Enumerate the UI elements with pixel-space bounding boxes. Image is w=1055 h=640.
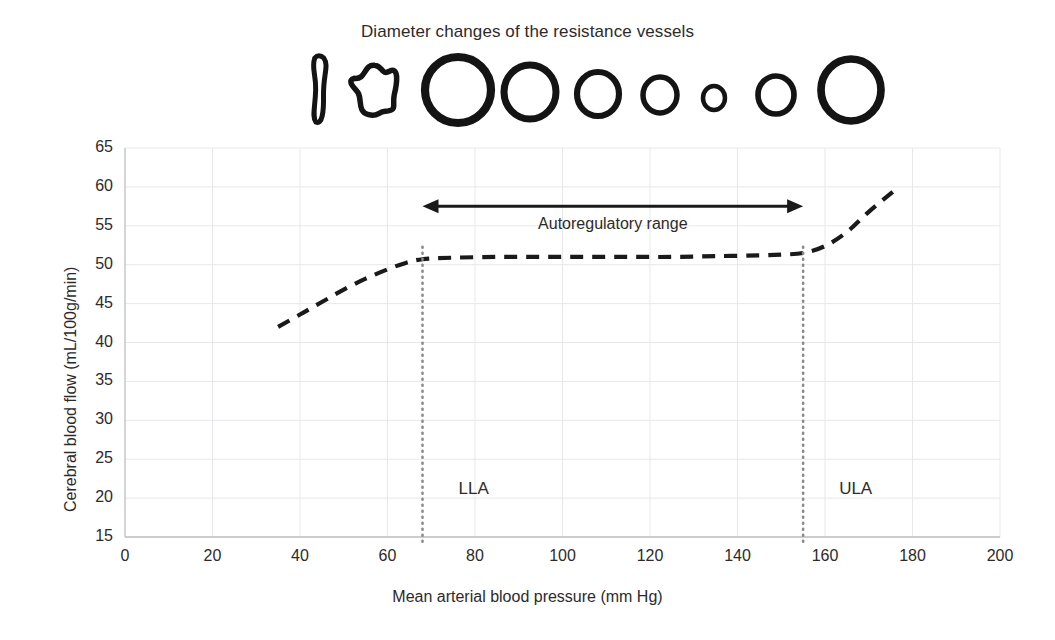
autoregulatory-range-arrow-label: Autoregulatory range [85,215,1055,233]
y-tick-label: 20 [49,488,113,506]
y-tick-label: 35 [49,371,113,389]
x-tick-label: 180 [883,547,943,565]
x-axis-title: Mean arterial blood pressure (mm Hg) [0,588,1055,606]
x-tick-label: 40 [270,547,330,565]
x-tick-label: 0 [95,547,155,565]
y-tick-label: 15 [49,527,113,545]
y-axis-title: Cerebral blood flow (mL/100g/min) [62,267,80,512]
x-tick-label: 140 [708,547,768,565]
x-tick-label: 100 [533,547,593,565]
x-tick-label: 200 [970,547,1030,565]
y-tick-label: 40 [49,333,113,351]
y-tick-label: 60 [49,177,113,195]
autoregulatory-range-arrow-head-left [423,199,439,213]
y-tick-label: 25 [49,449,113,467]
y-tick-label: 50 [49,255,113,273]
y-tick-label: 65 [49,138,113,156]
x-tick-label: 60 [358,547,418,565]
x-tick-label: 80 [445,547,505,565]
x-tick-label: 160 [795,547,855,565]
autoregulation-figure: Diameter changes of the resistance vesse… [0,0,1055,640]
y-tick-label: 30 [49,410,113,428]
upper-limit-marker-label: ULA [839,479,872,499]
y-tick-label: 45 [49,294,113,312]
x-tick-label: 120 [620,547,680,565]
autoregulatory-range-arrow-head-right [787,199,803,213]
x-tick-label: 20 [183,547,243,565]
lower-limit-marker-label: LLA [459,479,489,499]
